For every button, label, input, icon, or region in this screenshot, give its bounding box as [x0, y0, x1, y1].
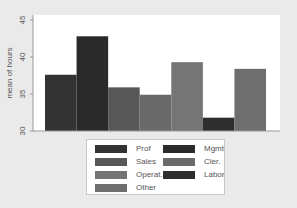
legend-swatch — [163, 145, 195, 153]
legend-item: Cler. — [163, 157, 220, 166]
bar-sales — [108, 87, 140, 131]
bar-prof — [45, 75, 77, 131]
legend-item: Mgmt — [163, 144, 224, 153]
legend-swatch — [163, 158, 195, 166]
y-tick-label: 35 — [18, 89, 27, 98]
bar-cler — [140, 95, 172, 131]
legend-item: Sales — [95, 157, 156, 166]
y-tick-label: 30 — [18, 126, 27, 135]
legend-item: Labor — [163, 170, 224, 179]
bar-labor — [203, 118, 235, 131]
legend-label: Operat. — [136, 170, 163, 179]
legend: ProfMgmtSalesCler.Operat.LaborOther — [86, 139, 225, 195]
y-axis-label: mean of hours — [5, 47, 14, 98]
legend-label: Mgmt — [204, 144, 224, 153]
legend-label: Sales — [136, 157, 156, 166]
y-tick-label: 45 — [18, 15, 27, 24]
legend-item: Operat. — [95, 170, 163, 179]
legend-item: Other — [95, 183, 156, 192]
legend-item: Prof — [95, 144, 151, 153]
legend-swatch — [95, 184, 127, 192]
bar-other — [234, 69, 266, 131]
bar-operat — [171, 62, 203, 131]
legend-label: Other — [136, 183, 156, 192]
legend-swatch — [163, 171, 195, 179]
bar-mgmt — [77, 36, 109, 131]
legend-label: Cler. — [204, 157, 220, 166]
legend-swatch — [95, 158, 127, 166]
y-tick-label: 40 — [18, 52, 27, 61]
legend-swatch — [95, 145, 127, 153]
legend-swatch — [95, 171, 127, 179]
legend-label: Prof — [136, 144, 151, 153]
legend-label: Labor — [204, 170, 224, 179]
